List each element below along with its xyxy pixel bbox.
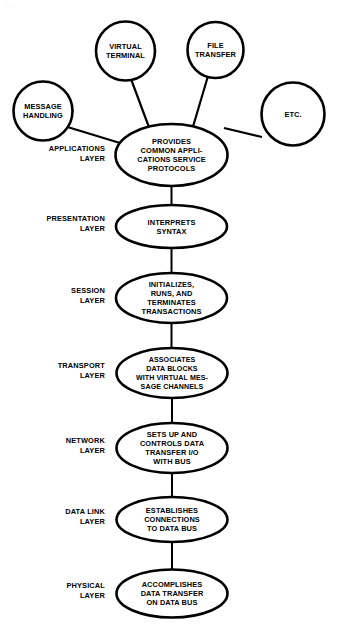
service-node-etc-label: ETC. — [284, 110, 301, 119]
layer-label-physical: PHYSICALLAYER — [66, 581, 105, 600]
service-node-virtual-terminal-label: VIRTUALTERMINAL — [106, 42, 145, 60]
layer-node-data-link-description: ESTABLISHESCONNECTIONSTO DATA BUS — [144, 506, 200, 533]
layer-label-session: SESSIONLAYER — [71, 286, 105, 305]
service-node-message-handling[interactable]: MESSAGEHANDLING — [14, 82, 73, 141]
spoke-message-handling — [68, 127, 121, 143]
spoke-file-transfer — [192, 76, 208, 130]
layer-node-transport[interactable]: ASSOCIATESDATA BLOCKSWITH VIRTUAL MES-SA… — [117, 348, 228, 398]
layer-label-applications: APPLICATIONSLAYER — [49, 144, 106, 163]
service-node-etc[interactable]: ETC. — [262, 83, 325, 146]
layer-node-network[interactable]: SETS UP ANDCONTROLS DATATRANSFER I/OWITH… — [117, 423, 228, 473]
layer-node-data-link[interactable]: ESTABLISHESCONNECTIONSTO DATA BUS — [117, 497, 228, 542]
layer-node-session[interactable]: INITIALIZES,RUNS, ANDTERMINATESTRANSACTI… — [116, 273, 227, 323]
spoke-virtual-terminal — [131, 79, 150, 130]
layer-node-physical-description: ACCOMPLISHESDATA TRANSFERON DATA BUS — [141, 580, 204, 607]
spoke-etc — [224, 128, 262, 137]
layer-label-network: NETWORKLAYER — [66, 436, 106, 455]
layer-node-physical[interactable]: ACCOMPLISHESDATA TRANSFERON DATA BUS — [117, 570, 228, 618]
layer-label-data-link: DATA LINKLAYER — [65, 507, 105, 526]
layer-label-presentation: PRESENTATIONLAYER — [46, 214, 105, 233]
layer-label-transport: TRANSPORTLAYER — [58, 361, 106, 380]
diagram-canvas: VIRTUALTERMINALFILETRANSFERMESSAGEHANDLI… — [0, 0, 339, 634]
osi-layer-diagram: ... VIRTUALTERMINALFILETRANSFERMESSAGEHA… — [0, 0, 339, 634]
layer-node-presentation[interactable]: INTERPRETSSYNTAX — [116, 205, 227, 248]
layer-labels-group: APPLICATIONSLAYERPRESENTATIONLAYERSESSIO… — [46, 144, 105, 600]
service-node-file-transfer[interactable]: FILETRANSFER — [188, 22, 244, 78]
service-node-virtual-terminal[interactable]: VIRTUALTERMINAL — [96, 22, 155, 81]
layer-node-session-description: INITIALIZES,RUNS, ANDTERMINATESTRANSACTI… — [142, 280, 202, 317]
layer-node-applications[interactable]: PROVIDESCOMMON APPLI-CATIONS SERVICEPROT… — [116, 124, 228, 186]
service-node-message-handling-label: MESSAGEHANDLING — [23, 102, 63, 120]
